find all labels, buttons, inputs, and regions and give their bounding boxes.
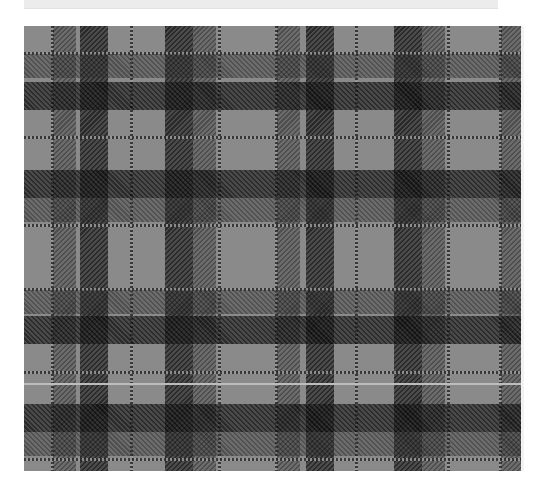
top-caption-strip: · · · [24,0,498,9]
plaid-light-stripes [24,26,522,471]
plaid-right-edge [521,26,524,471]
tartan-plaid-image [24,26,522,471]
plaid-light-stripe [24,383,522,385]
top-caption-text: · · · [184,0,205,5]
